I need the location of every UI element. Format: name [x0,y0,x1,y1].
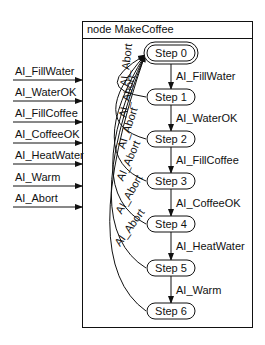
step-label: Step 4 [155,218,187,230]
step-2[interactable]: Step 2 [147,131,195,147]
transition-label: AI_FillCoffee [176,154,239,166]
input-label: AI_CoffeeOK [15,128,80,140]
input-label: AI_Warm [15,171,60,183]
step-1[interactable]: Step 1 [147,89,195,105]
input-label: AI_Abort [15,192,58,204]
transition-label: AI_FillWater [176,70,236,82]
state-diagram: node MakeCoffee AI_FillWaterAI_WaterOKAI… [0,0,265,345]
input-label: AI_FillCoffee [15,107,78,119]
step-label: Step 0 [155,47,187,59]
step-6[interactable]: Step 6 [147,303,195,319]
input-signal: AI_FillCoffee [13,107,82,122]
transition-label: AI_CoffeeOK [176,197,241,209]
input-signal: AI_Warm [13,171,82,186]
step-label: Step 6 [155,305,187,317]
input-label: AI_HeatWater [15,149,84,161]
input-signal: AI_Abort [13,192,82,207]
input-signal: AI_WaterOK [13,86,82,101]
input-signal: AI_HeatWater [13,149,84,164]
input-label: AI_WaterOK [15,86,77,98]
node-title: node MakeCoffee [87,23,174,35]
step-label: Step 2 [155,133,187,145]
step-5[interactable]: Step 5 [147,260,195,276]
step-label: Step 1 [155,91,187,103]
transition-label: AI_WaterOK [176,112,238,124]
transition-label: AI_Warm [176,284,221,296]
input-signal: AI_FillWater [13,65,82,80]
step-label: Step 5 [155,262,187,274]
transition-label: AI_HeatWater [176,240,245,252]
step-4[interactable]: Step 4 [147,216,195,232]
step-3[interactable]: Step 3 [147,173,195,189]
step-0[interactable]: Step 0 [144,42,198,64]
input-signal: AI_CoffeeOK [13,128,82,143]
step-label: Step 3 [155,175,187,187]
input-label: AI_FillWater [15,65,75,77]
